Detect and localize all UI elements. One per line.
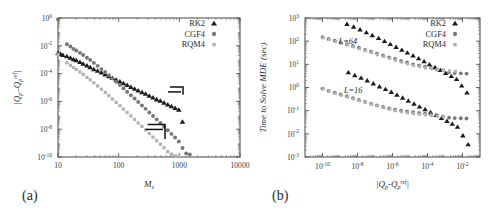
point-RQM4 [166,150,169,153]
point-RQM4 [334,92,337,95]
point-RQM4 [177,155,180,158]
point-RK2 [352,73,357,77]
tick-label: 10-6 [40,96,52,106]
point-RK2 [460,133,465,137]
point-RK2 [405,50,410,54]
point-RQM4 [388,57,391,60]
tick-label: 100 [42,13,53,23]
point-RQM4 [400,61,403,64]
panel-label-b: (b) [272,188,289,204]
figure-container: 1010010001000010010-210-410-610-810-10Ms… [0,0,497,213]
point-RQM4 [122,107,125,110]
point-RK2 [454,77,459,81]
point-CGF4 [188,153,192,157]
legend-marker-RK2 [211,21,217,26]
point-RK2 [416,56,421,60]
point-RK2 [180,119,186,124]
slope-guide [170,87,183,95]
legend-marker-RQM4 [212,43,215,46]
point-RQM4 [56,53,59,56]
point-RQM4 [382,55,385,58]
point-RQM4 [424,113,427,116]
series-RK2-L-16 [346,70,471,146]
point-CGF4 [140,104,144,108]
point-RQM4 [92,81,95,84]
tick-label: 10-2 [456,161,468,171]
series-RK2-L-64 [344,22,469,95]
point-RK2 [382,39,387,43]
point-CGF4 [88,58,92,62]
point-CGF4 [465,72,469,76]
point-RK2 [465,142,470,146]
point-CGF4 [114,80,118,84]
point-RQM4 [75,68,78,71]
point-RK2 [450,121,455,125]
point-RK2 [388,42,393,46]
legend-label-RK2: RK2 [430,19,446,28]
point-RK2 [364,78,369,82]
tick-label: 10-4 [40,68,52,78]
point-RQM4 [412,64,415,67]
point-RQM4 [170,153,173,156]
point-RQM4 [85,76,88,79]
legend-label-RQM4: RQM4 [182,40,206,49]
x-axis-title: |Qp-Qpref| [376,179,409,190]
point-CGF4 [465,117,469,121]
point-RQM4 [322,36,325,39]
point-RK2 [376,36,381,40]
point-CGF4 [110,76,114,80]
point-RQM4 [107,94,110,97]
point-RK2 [364,30,369,34]
point-RQM4 [442,115,445,118]
point-CGF4 [184,151,188,155]
point-RQM4 [370,51,373,54]
tick-label: 10-10 [315,161,330,171]
point-RQM4 [65,61,68,64]
point-RQM4 [436,68,439,71]
point-RQM4 [442,69,445,72]
point-RQM4 [159,143,162,146]
x-tick-label: 10 [54,161,62,170]
point-CGF4 [136,100,140,104]
point-RQM4 [162,146,165,149]
point-RK2 [357,27,362,31]
point-RK2 [393,45,398,49]
point-RK2 [400,95,405,99]
point-RQM4 [148,132,151,135]
point-CGF4 [118,83,122,87]
point-RK2 [346,70,351,74]
panel-a-plot: 1010010001000010010-210-410-610-810-10Ms… [0,0,250,213]
tick-label: 10-4 [421,161,433,171]
point-CGF4 [65,42,69,46]
point-CGF4 [74,49,78,53]
point-RK2 [464,90,469,94]
plot-frame [58,18,240,157]
panel-b-plot: 10-1010-810-610-410-210310210110010-110-… [250,0,497,213]
point-RQM4 [82,73,85,76]
point-CGF4 [68,44,72,48]
point-RQM4 [129,114,132,117]
point-RQM4 [364,101,367,104]
point-RQM4 [394,59,397,62]
point-RQM4 [418,113,421,116]
point-RQM4 [118,104,121,107]
point-CGF4 [125,90,129,94]
tick-label: 10-8 [351,161,363,171]
point-CGF4 [166,128,170,132]
series-RQM4 [56,53,180,159]
point-RQM4 [340,94,343,97]
legend: RK2CGF4RQM4 [182,19,217,49]
legend-label-CGF4: CGF4 [185,30,206,39]
panel-label-a: (a) [22,188,38,204]
point-CGF4 [103,70,107,74]
point-RQM4 [328,38,331,41]
point-RQM4 [364,49,367,52]
tick-label: 10-2 [40,40,52,50]
point-RK2 [422,107,427,111]
point-RQM4 [400,110,403,113]
point-RQM4 [430,114,433,117]
legend-marker-RK2 [452,21,458,26]
point-CGF4 [459,116,463,120]
point-RK2 [344,22,349,26]
point-RK2 [371,81,376,85]
